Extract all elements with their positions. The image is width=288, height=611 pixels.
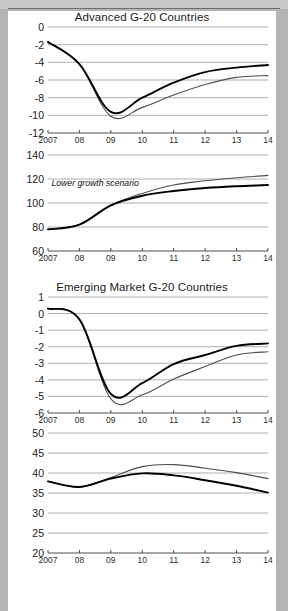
x-axis-tick-label: 14 <box>263 253 272 263</box>
y-axis-tick-label: -5 <box>35 390 48 402</box>
x-axis-tick-label: 08 <box>75 415 84 425</box>
x-axis-tick-label: 09 <box>106 555 115 565</box>
y-axis-tick-label: 35 <box>32 487 48 499</box>
panel-advanced-g20: Advanced G-20 Countries 0-2-4-6-8-10-122… <box>8 11 276 267</box>
y-axis-tick-label: 45 <box>32 447 48 459</box>
series-line-lower-growth-scenario <box>48 464 268 487</box>
x-axis-tick-label: 13 <box>232 555 241 565</box>
x-axis-tick-label: 13 <box>232 415 241 425</box>
y-axis-tick-label: 40 <box>32 467 48 479</box>
y-axis-tick-label: -8 <box>35 92 48 104</box>
x-axis-tick-label: 10 <box>138 135 147 145</box>
y-axis-tick-label: 50 <box>32 427 48 439</box>
x-axis-tick-label: 11 <box>169 415 178 425</box>
x-axis-tick-label: 09 <box>106 253 115 263</box>
y-axis-tick-label: -3 <box>35 357 48 369</box>
x-axis-tick-label: 14 <box>263 415 272 425</box>
y-axis-tick-label: 30 <box>32 507 48 519</box>
series-line-base-case <box>48 309 268 398</box>
y-axis-tick-label: 140 <box>26 149 48 161</box>
x-axis-tick-label: 08 <box>75 555 84 565</box>
x-axis-tick-label: 11 <box>169 555 178 565</box>
y-axis-tick-label: 0 <box>38 308 48 320</box>
x-axis-tick-label: 2007 <box>39 135 58 145</box>
y-axis-tick-label: -2 <box>35 341 48 353</box>
chart-emerging-fiscal-balance[interactable]: 10-1-2-3-4-5-6200708091011121314Fiscal B… <box>8 293 276 429</box>
x-axis-tick-label: 10 <box>138 555 147 565</box>
panel-emerging-g20: Emerging Market G-20 Countries 10-1-2-3-… <box>8 281 276 555</box>
series-line-base-case <box>48 473 268 492</box>
x-axis-tick-label: 12 <box>200 253 209 263</box>
chart-canvas <box>8 149 276 267</box>
figure-page: Advanced G-20 Countries 0-2-4-6-8-10-122… <box>8 11 276 611</box>
x-axis-tick-label: 2007 <box>39 415 58 425</box>
x-axis-tick-label: 12 <box>200 415 209 425</box>
y-axis-tick-label: 80 <box>32 221 48 233</box>
panel-spacer <box>8 267 276 281</box>
y-axis-tick-label: -4 <box>35 56 48 68</box>
x-axis-tick-label: 2007 <box>39 555 58 565</box>
x-axis-tick-label: 10 <box>138 415 147 425</box>
y-axis-tick-label: 100 <box>26 197 48 209</box>
chart-advanced-fiscal-balance[interactable]: 0-2-4-6-8-10-12200708091011121314Fiscal … <box>8 23 276 149</box>
x-axis-tick-label: 14 <box>263 555 272 565</box>
chart-canvas <box>8 23 276 149</box>
x-axis-tick-label: 2007 <box>39 253 58 263</box>
x-axis-tick-label: 13 <box>232 135 241 145</box>
x-axis-tick-label: 08 <box>75 253 84 263</box>
y-axis-tick-label: -10 <box>29 109 48 121</box>
x-axis-tick-label: 14 <box>263 135 272 145</box>
x-axis-tick-label: 11 <box>169 253 178 263</box>
panel-title: Advanced G-20 Countries <box>8 11 276 23</box>
y-axis-tick-label: -4 <box>35 374 48 386</box>
screenshot-root: { "document": { "cropped_header_text": "… <box>0 0 288 611</box>
panel-title: Emerging Market G-20 Countries <box>8 281 276 293</box>
chart-canvas <box>8 293 276 429</box>
y-axis-tick-label: 0 <box>38 21 48 33</box>
chart-advanced-government-debt[interactable]: 1401201008060200708091011121314Governmen… <box>8 149 276 267</box>
y-axis-tick-label: 120 <box>26 173 48 185</box>
x-axis-tick-label: 12 <box>200 555 209 565</box>
chart-emerging-government-debt[interactable]: 50454035302520200708091011121314Governme… <box>8 429 276 555</box>
series-line-base-case <box>48 185 268 229</box>
chart-canvas <box>8 429 276 555</box>
x-axis-tick-label: 11 <box>169 135 178 145</box>
x-axis-tick-label: 09 <box>106 415 115 425</box>
x-axis-tick-label: 08 <box>75 135 84 145</box>
x-axis-tick-label: 10 <box>138 253 147 263</box>
x-axis-tick-label: 12 <box>200 135 209 145</box>
x-axis-tick-label: 13 <box>232 253 241 263</box>
y-axis-tick-label: -6 <box>35 74 48 86</box>
y-axis-tick-label: -1 <box>35 324 48 336</box>
x-axis-tick-label: 09 <box>106 135 115 145</box>
y-axis-tick-label: -2 <box>35 39 48 51</box>
y-axis-tick-label: 25 <box>32 527 48 539</box>
series-annotation: Lower growth scenario <box>51 178 138 188</box>
header-divider <box>8 8 280 9</box>
y-axis-tick-label: 1 <box>38 291 48 303</box>
